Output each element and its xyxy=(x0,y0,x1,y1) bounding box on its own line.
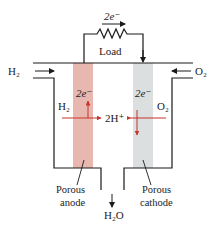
cathode-label-line2: cathode xyxy=(140,197,173,208)
fuel-cell-diagram: 2e⁻ Load H₂ O₂ H₂ O₂ 2e⁻ 2e⁻ 2H⁺ Porous … xyxy=(0,0,222,226)
anode-label-line1: Porous xyxy=(56,184,85,195)
load-label: Load xyxy=(99,45,122,57)
anode-electrons-label: 2e⁻ xyxy=(76,87,92,99)
anode-label-line2: anode xyxy=(60,197,85,208)
h2-inlet-label: H₂ xyxy=(8,65,20,77)
cathode-label-line1: Porous xyxy=(142,184,171,195)
h2-inside-label: H₂ xyxy=(58,100,70,112)
o2-inside-label: O₂ xyxy=(157,100,169,112)
proton-arrowhead-right xyxy=(127,116,131,120)
o2-inlet-label: O₂ xyxy=(195,65,207,77)
porous-cathode xyxy=(133,63,153,168)
cathode-electrons-label: 2e⁻ xyxy=(135,87,151,99)
top-electrons-label: 2e⁻ xyxy=(104,10,120,22)
water-label: H₂O xyxy=(104,209,124,221)
porous-anode xyxy=(73,63,93,168)
protons-label: 2H⁺ xyxy=(105,112,124,124)
